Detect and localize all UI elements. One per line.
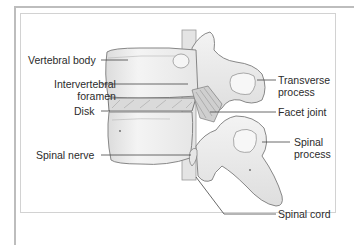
label-disk: Disk bbox=[74, 105, 94, 117]
label-text: Disk bbox=[74, 105, 94, 117]
label-text: foramen bbox=[54, 90, 116, 102]
label-spinal-nerve: Spinal nerve bbox=[36, 149, 94, 161]
label-text: Spinal bbox=[294, 136, 331, 148]
upper-vertebral-body bbox=[106, 48, 198, 98]
label-text: process bbox=[278, 86, 330, 98]
label-spinal-process: Spinal process bbox=[294, 136, 331, 160]
label-vertebral-body: Vertebral body bbox=[28, 54, 96, 66]
label-spinal-cord: Spinal cord bbox=[278, 208, 331, 220]
label-text: process bbox=[294, 148, 331, 160]
intervertebral-disk bbox=[108, 98, 196, 111]
label-text: Spinal cord bbox=[278, 208, 331, 220]
label-text: Transverse bbox=[278, 74, 330, 86]
label-text: Spinal nerve bbox=[36, 149, 94, 161]
label-text: Intervertebral bbox=[54, 78, 116, 90]
label-facet-joint: Facet joint bbox=[278, 106, 326, 118]
label-intervertebral-foramen: Intervertebral foramen bbox=[54, 78, 116, 102]
label-text: Vertebral body bbox=[28, 54, 96, 66]
label-transverse-process: Transverse process bbox=[278, 74, 330, 98]
lower-posterior-arch bbox=[196, 116, 282, 206]
lower-vertebral-body bbox=[108, 112, 193, 164]
label-text: Facet joint bbox=[278, 106, 326, 118]
